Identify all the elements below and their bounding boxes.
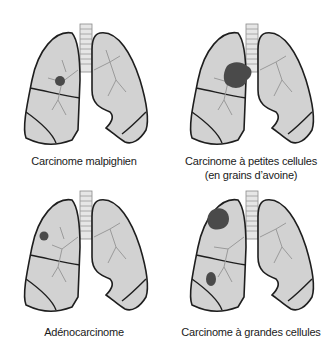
caption-squamous-cell: Carcinome malpighien — [0, 154, 168, 168]
left-lung-icon — [92, 200, 148, 310]
lungs-illustration — [0, 175, 168, 325]
right-lung-icon — [25, 33, 80, 145]
trachea-icon — [246, 24, 258, 72]
panel-large-cell: Carcinome à grandes cellules — [167, 175, 335, 354]
caption-line: Carcinome malpighien — [0, 154, 168, 168]
left-lung-icon — [92, 33, 148, 143]
panel-adenocarcinoma: Adénocarcinome — [0, 175, 168, 354]
trachea-icon — [80, 191, 92, 239]
trachea-icon — [246, 191, 258, 239]
lungs-illustration — [167, 0, 335, 150]
lungs-illustration — [167, 175, 335, 325]
right-lung-icon — [191, 200, 246, 312]
caption-adenocarcinoma: Adénocarcinome — [0, 325, 168, 339]
caption-line: Carcinome à petites cellules — [167, 154, 335, 168]
panel-small-cell: Carcinome à petites cellules (en grains … — [167, 0, 335, 185]
panel-squamous-cell: Carcinome malpighien — [0, 0, 168, 175]
left-lung-icon — [258, 200, 314, 310]
lungs-illustration — [0, 0, 168, 150]
right-lung-icon — [25, 200, 80, 312]
tumor-icon — [207, 208, 229, 229]
left-lung-icon — [258, 33, 314, 143]
right-lung-icon — [191, 33, 252, 145]
trachea-icon — [80, 24, 92, 72]
caption-large-cell: Carcinome à grandes cellules — [167, 325, 335, 339]
caption-line: Carcinome à grandes cellules — [167, 325, 335, 339]
tumor-icon — [206, 272, 216, 286]
tumor-icon — [40, 232, 49, 241]
caption-line: Adénocarcinome — [0, 325, 168, 339]
tumor-icon — [55, 76, 65, 86]
